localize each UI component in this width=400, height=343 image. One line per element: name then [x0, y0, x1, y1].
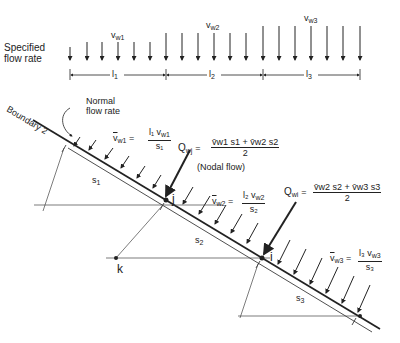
element-length-line [68, 148, 372, 332]
s3-label: s3 [296, 293, 304, 306]
eq-vw2-fraction: l₂ vw2 s₂ [242, 190, 265, 214]
node-i-label: i [270, 250, 273, 264]
eq-vw2: vw2 = [212, 196, 233, 209]
eq-vw1-fraction: l₁ vw1 s₁ [148, 127, 171, 151]
eq-qwi-fraction: v̄w2 s2 + v̄w3 s3 2 [313, 182, 381, 203]
specified-flow-label: Specified flow rate [4, 42, 45, 64]
node-j-label: j [172, 192, 175, 206]
node-i [260, 256, 265, 261]
eq-qwj: Qwj = [178, 142, 200, 156]
l1-label: l1 [112, 69, 118, 82]
eq-vw1: vw1 = [113, 133, 134, 146]
vw3-label: vw3 [304, 13, 317, 26]
node-j [164, 198, 169, 203]
normal-flow-label: Normal flow rate [86, 96, 120, 116]
eq-qwj-fraction: v̄w1 s1 + v̄w2 s2 2 [211, 137, 279, 158]
vw2-label: vw2 [206, 20, 219, 33]
nodal-flow-arrow-j [166, 150, 190, 196]
nodal-flow-arrow-i [264, 202, 296, 254]
vw1-label: vw1 [111, 30, 124, 43]
node-end [358, 314, 362, 318]
l3-label: l3 [306, 69, 312, 82]
node-k [114, 256, 118, 260]
eq-qwi: Qwi = [284, 186, 306, 200]
eq-vw3: vw3 = [330, 253, 351, 266]
s2-label: s2 [195, 235, 203, 248]
eq-vw3-fraction: l₃ vw3 s₃ [358, 248, 382, 272]
l2-label: l2 [209, 69, 215, 82]
node-k-label: k [117, 262, 123, 276]
s1-label: s1 [92, 175, 100, 188]
construction-lines [34, 148, 360, 318]
nodal-flow-note: (Nodal flow) [197, 162, 245, 173]
boundary-line [33, 120, 380, 329]
normal-flow-leader [63, 108, 72, 136]
